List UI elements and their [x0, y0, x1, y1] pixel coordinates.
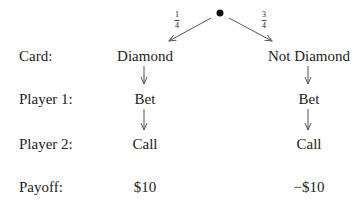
node-not-diamond: Not Diamond — [268, 49, 350, 64]
node-left-bet: Bet — [135, 92, 156, 107]
node-left-call: Call — [133, 137, 158, 152]
payoff-right: −$10 — [294, 180, 325, 195]
row-label-payoff: Payoff: — [19, 180, 63, 195]
row-label-card: Card: — [19, 49, 52, 64]
node-right-bet: Bet — [299, 92, 320, 107]
row-label-player1: Player 1: — [19, 92, 73, 107]
node-diamond: Diamond — [117, 49, 173, 64]
root-node — [217, 10, 224, 17]
node-right-call: Call — [297, 137, 322, 152]
probability-diamond: 1 4 — [175, 11, 180, 30]
payoff-left: $10 — [134, 180, 157, 195]
row-label-player2: Player 2: — [19, 137, 73, 152]
probability-not-diamond: 3 4 — [262, 11, 267, 30]
